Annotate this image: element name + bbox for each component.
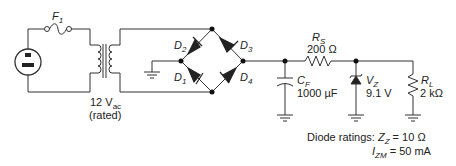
ground-icon: [144, 72, 160, 78]
diode-d1-icon: [188, 68, 203, 84]
diode-d2-icon: [188, 37, 202, 54]
diode-d3-icon: [220, 38, 238, 52]
diode-d3-label: D3: [240, 39, 253, 54]
rl-value: 2 kΩ: [420, 87, 443, 99]
resistor-rs-icon: [305, 56, 331, 66]
wire: [28, 29, 44, 49]
bridge-rectifier: [181, 29, 243, 92]
circuit-diagram: F1 12 Vac (rated) D2 D3 D1 D4 RS 200 Ω C…: [0, 0, 456, 166]
zener-diode-icon: [350, 74, 362, 84]
diode-d2-label: D2: [174, 39, 187, 54]
fuse-label: F1: [52, 10, 63, 25]
diode-d4-label: D4: [240, 71, 253, 86]
ratings-izm: IZM = 50 mA: [372, 145, 432, 160]
cf-value: 1000 µF: [297, 87, 338, 99]
diode-d4-icon: [220, 68, 236, 83]
ground-icon: [348, 115, 364, 121]
ratings-zz: Diode ratings: ZZ = 10 Ω: [307, 131, 426, 146]
resistor-rl-icon: [408, 74, 418, 96]
ground-icon: [277, 115, 293, 121]
ac-plug-icon: [15, 49, 41, 75]
rs-value: 200 Ω: [307, 43, 337, 55]
transformer-rated-label: (rated): [89, 109, 121, 121]
fuse-icon: [45, 24, 72, 35]
vz-value: 9.1 V: [366, 87, 392, 99]
transformer-icon: [90, 44, 120, 78]
ground-icon: [405, 115, 421, 121]
diode-d1-label: D1: [174, 71, 186, 86]
wire: [28, 75, 90, 92]
wire: [72, 29, 91, 45]
